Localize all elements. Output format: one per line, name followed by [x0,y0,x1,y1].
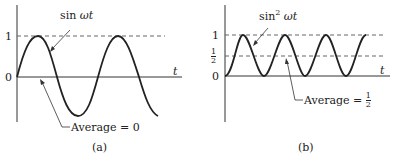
panel-a-y-tick-1: 1 [5,31,12,42]
panel-a-average-label: Average = 0 [71,122,140,133]
panel-b-y-tick-half: 12 [211,48,216,65]
panel-b-average-pointer [287,61,303,100]
panel-b-y-tick-0: 0 [212,71,219,82]
panel-a-x-axis-label: t [173,66,177,77]
panel-b-x-axis-label: t [380,65,384,76]
panel-a-curve-fn: sin [60,9,76,22]
panel-b-average-text: Average = [304,94,366,107]
panel-b-curve-fn: sin [259,10,275,23]
panel-b-average-label: Average = 12 [304,92,371,109]
panel-b-caption: (b) [298,142,314,153]
panel-b-sin-squared-curve [225,35,366,76]
panel-a-caption: (a) [92,142,107,153]
half-den: 2 [211,57,216,65]
panel-a-axes [17,5,182,122]
panel-b-curve-label: sin2 ωt [259,9,297,22]
panel-b-curve-var: ωt [284,10,297,23]
panel-b-label-pointer [255,28,268,43]
panel-b-curve-exponent: 2 [275,8,280,17]
avg-den: 2 [366,101,371,109]
panel-a-sine-curve [17,36,158,116]
panel-a-y-tick-0: 0 [5,72,12,83]
panel-a-curve-var: ωt [80,9,93,22]
figure-canvas [0,0,393,161]
panel-b-y-tick-1: 1 [212,30,219,41]
panel-a-curve-label: sin ωt [60,10,93,21]
panel-a-label-pointer [52,30,70,49]
